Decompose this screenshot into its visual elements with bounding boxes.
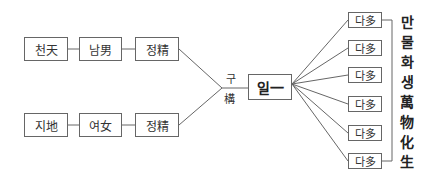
node-heaven: 천天 <box>24 37 68 61</box>
node-essence-bottom: 정精 <box>135 113 179 137</box>
node-earth: 지地 <box>24 113 68 137</box>
side-char: 物 <box>400 112 414 132</box>
side-char: 萬 <box>400 92 414 112</box>
node-one: 일一 <box>248 74 292 100</box>
node-many-3: 다多 <box>348 67 382 83</box>
diagram: 천天 남男 정精 지地 여女 정精 구 構 일一 다多 다多 다多 다多 다多 … <box>0 0 433 182</box>
node-many-4: 다多 <box>348 96 382 112</box>
node-many-2: 다多 <box>348 40 382 56</box>
side-char: 生 <box>400 152 414 172</box>
side-char: 생 <box>401 72 414 92</box>
node-many-6: 다多 <box>348 153 382 169</box>
join-label-hanja: 構 <box>224 90 235 106</box>
join-label-hangul: 구 <box>226 70 236 86</box>
side-char: 화 <box>401 52 414 72</box>
node-many-5: 다多 <box>348 125 382 141</box>
side-label-creation: 만 물 화 생 萬 物 化 生 <box>397 12 417 172</box>
node-many-1: 다多 <box>348 12 382 28</box>
side-char: 물 <box>401 32 414 52</box>
side-char: 만 <box>401 12 414 32</box>
node-male: 남男 <box>79 37 122 61</box>
node-essence-top: 정精 <box>135 37 179 61</box>
side-char: 化 <box>400 132 414 152</box>
node-female: 여女 <box>79 113 122 137</box>
